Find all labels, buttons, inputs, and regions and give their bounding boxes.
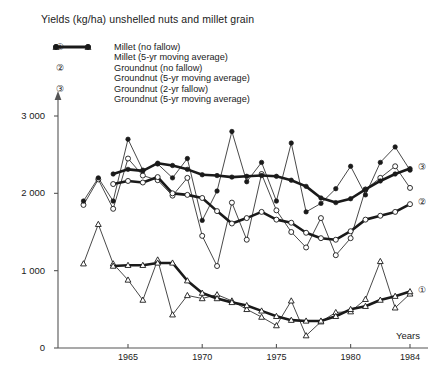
series-5 — [111, 161, 412, 205]
y-tick-label: 2 000 — [5, 187, 45, 198]
x-tick-label: 1965 — [108, 352, 148, 362]
chart-figure: Yields (kg/ha) unshelled nuts and millet… — [0, 0, 442, 388]
series-end-label: ② — [418, 197, 426, 207]
x-axis-title: Years — [396, 330, 420, 341]
x-tick-label: 1970 — [182, 352, 222, 362]
series-3 — [111, 175, 413, 243]
x-tick-label: 1975 — [256, 352, 296, 362]
series-end-label: ③ — [418, 162, 426, 172]
y-tick-label: 0 — [5, 342, 45, 353]
y-tick-label: 1 000 — [5, 265, 45, 276]
plot-area — [0, 0, 442, 388]
x-tick-label: 1980 — [331, 352, 371, 362]
series-2 — [81, 156, 413, 268]
series-end-label: ① — [418, 285, 426, 295]
y-tick-label: 3 000 — [5, 110, 45, 121]
x-tick-label: 1984 — [390, 352, 430, 362]
